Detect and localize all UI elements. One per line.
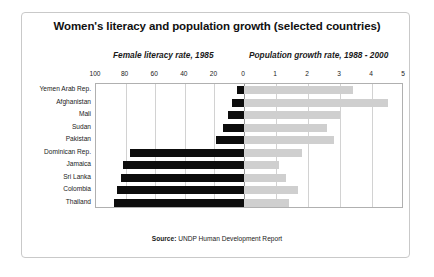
tick-literacy-40: 40 xyxy=(180,70,187,77)
bar-growth xyxy=(244,99,388,107)
source-note: Source: UNDP Human Development Report xyxy=(0,235,434,242)
page-title: Women's literacy and population growth (… xyxy=(0,20,434,32)
category-label: Thailand xyxy=(66,198,91,206)
bar-rows xyxy=(96,84,402,207)
tick-growth-1: 1 xyxy=(273,70,277,77)
bar-literacy xyxy=(223,124,244,132)
bar-growth xyxy=(244,149,302,157)
bar-row xyxy=(96,84,402,97)
category-label: Sudan xyxy=(72,123,91,131)
bar-literacy xyxy=(232,99,244,107)
source-label: Source: xyxy=(152,235,177,242)
tick-growth-2: 2 xyxy=(305,70,309,77)
tick-literacy-20: 20 xyxy=(210,70,217,77)
bar-literacy xyxy=(117,186,244,194)
category-label: Mali xyxy=(79,110,91,118)
tick-literacy-100: 100 xyxy=(89,70,100,77)
bar-literacy xyxy=(216,136,244,144)
bar-growth xyxy=(244,161,279,169)
bar-literacy xyxy=(228,111,244,119)
bar-row xyxy=(96,122,402,135)
bar-growth xyxy=(244,136,334,144)
bar-row xyxy=(96,184,402,197)
axis-tick-labels: 10080604020012345 xyxy=(0,70,434,81)
bar-literacy xyxy=(114,199,244,207)
bar-row xyxy=(96,172,402,185)
bar-growth xyxy=(244,111,340,119)
bar-row xyxy=(96,134,402,147)
category-label: Pakistan xyxy=(66,135,91,143)
source-text: UNDP Human Development Report xyxy=(176,235,282,242)
bar-literacy xyxy=(237,86,244,94)
tick-zero: 0 xyxy=(241,70,245,77)
category-label: Sri Lanka xyxy=(63,173,91,181)
category-axis-labels: Yemen Arab Rep.AfghanistanMaliSudanPakis… xyxy=(22,83,91,208)
category-label: Dominican Rep. xyxy=(44,148,91,156)
bar-literacy xyxy=(130,149,244,157)
subtitle-row: Female literacy rate, 1985 Population gr… xyxy=(0,50,434,64)
bar-growth xyxy=(244,86,353,94)
bar-growth xyxy=(244,199,289,207)
category-label: Yemen Arab Rep. xyxy=(40,85,91,93)
bar-growth xyxy=(244,186,298,194)
bar-row xyxy=(96,147,402,160)
bar-literacy xyxy=(123,161,244,169)
bar-literacy xyxy=(121,174,244,182)
axis-title-literacy: Female literacy rate, 1985 xyxy=(113,50,214,60)
bar-growth xyxy=(244,124,327,132)
category-label: Jamaica xyxy=(66,160,91,168)
category-label: Colombia xyxy=(63,185,91,193)
plot-area xyxy=(95,83,403,208)
tick-literacy-60: 60 xyxy=(151,70,158,77)
category-label: Afghanistan xyxy=(56,98,91,106)
bar-row xyxy=(96,109,402,122)
bar-row xyxy=(96,159,402,172)
tick-growth-5: 5 xyxy=(401,70,405,77)
axis-title-growth: Population growth rate, 1988 - 2000 xyxy=(249,50,388,60)
tick-growth-4: 4 xyxy=(369,70,373,77)
bar-row xyxy=(96,197,402,210)
bar-growth xyxy=(244,174,286,182)
tick-growth-3: 3 xyxy=(337,70,341,77)
bar-row xyxy=(96,97,402,110)
tick-literacy-80: 80 xyxy=(121,70,128,77)
